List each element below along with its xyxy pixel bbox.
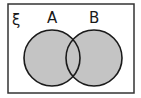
universal-set-symbol: ξ	[12, 11, 20, 29]
venn-diagram: ξ A B	[0, 0, 141, 98]
set-a-label: A	[47, 9, 58, 27]
set-b-label: B	[89, 9, 99, 27]
